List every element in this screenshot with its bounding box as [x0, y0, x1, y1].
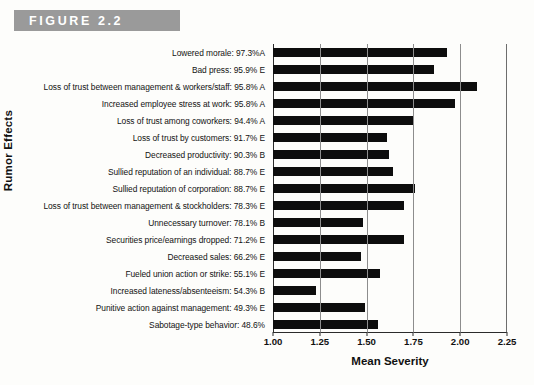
- category-label: Unnecessary turnover: 78.1% B: [148, 218, 265, 228]
- bar[interactable]: [273, 133, 387, 143]
- bar[interactable]: [273, 235, 404, 245]
- x-axis-tick-labels: 1.001.251.501.752.002.25: [273, 336, 507, 352]
- figure-number-label: FIGURE 2.2: [14, 14, 123, 28]
- category-label: Sullied reputation of an individual: 88.…: [108, 167, 265, 177]
- bar-row[interactable]: [273, 197, 507, 214]
- bar-row[interactable]: [273, 316, 507, 333]
- bar-row[interactable]: [273, 282, 507, 299]
- bar-row[interactable]: [273, 112, 507, 129]
- x-tick-label: 1.25: [310, 336, 329, 347]
- bar[interactable]: [273, 184, 415, 194]
- category-label: Loss of trust between management & worke…: [44, 82, 265, 92]
- bar-row[interactable]: [273, 299, 507, 316]
- bar[interactable]: [273, 99, 455, 109]
- x-tick-mark: [273, 332, 274, 336]
- bar[interactable]: [273, 320, 378, 330]
- bar[interactable]: [273, 48, 447, 58]
- bar[interactable]: [273, 82, 477, 92]
- category-label: Sabotage-type behavior: 48.6%: [149, 320, 265, 330]
- bar-row[interactable]: [273, 231, 507, 248]
- bar[interactable]: [273, 167, 393, 177]
- bar[interactable]: [273, 269, 380, 279]
- bar-row[interactable]: [273, 163, 507, 180]
- category-label: Bad press: 95.9% E: [192, 65, 265, 75]
- x-tick-mark: [366, 332, 367, 336]
- x-tick-mark: [507, 332, 508, 336]
- bar[interactable]: [273, 150, 389, 160]
- category-label: Decreased sales: 66.2% E: [168, 252, 266, 262]
- category-label-list: Lowered morale: 97.3%ABad press: 95.9% E…: [20, 44, 269, 333]
- plot-area: [273, 44, 507, 333]
- bar-row[interactable]: [273, 180, 507, 197]
- gridline: [320, 44, 321, 333]
- figure-container: FIGURE 2.2 Rumor Effects Lowered morale:…: [0, 0, 534, 385]
- bar-row[interactable]: [273, 248, 507, 265]
- bar-row[interactable]: [273, 61, 507, 78]
- x-axis-title: Mean Severity: [273, 355, 507, 367]
- bar-row[interactable]: [273, 129, 507, 146]
- bar[interactable]: [273, 65, 434, 75]
- bar-row[interactable]: [273, 95, 507, 112]
- x-tick-mark: [460, 332, 461, 336]
- bar[interactable]: [273, 201, 404, 211]
- x-tick-label: 2.25: [498, 336, 517, 347]
- bar[interactable]: [273, 218, 363, 228]
- bar-row[interactable]: [273, 78, 507, 95]
- x-tick-label: 1.50: [357, 336, 376, 347]
- category-label: Punitive action against management: 49.3…: [96, 303, 265, 313]
- bar-row[interactable]: [273, 214, 507, 231]
- bar[interactable]: [273, 252, 361, 262]
- category-label: Decreased productivity: 90.3% B: [145, 150, 265, 160]
- x-tick-label: 2.00: [451, 336, 470, 347]
- gridline: [413, 44, 414, 333]
- y-axis-title: Rumor Effects: [2, 110, 20, 191]
- category-label: Lowered morale: 97.3%A: [172, 48, 265, 58]
- category-label: Fueled union action or strike: 55.1% E: [125, 269, 265, 279]
- category-label: Loss of trust between management & stock…: [43, 201, 265, 211]
- x-tick-mark: [319, 332, 320, 336]
- x-tick-label: 1.75: [404, 336, 423, 347]
- category-label: Increased lateness/absenteeism: 54.3% B: [111, 286, 265, 296]
- x-tick-label: 1.00: [264, 336, 283, 347]
- bar-rows: [273, 44, 507, 333]
- x-tick-mark: [413, 332, 414, 336]
- category-label: Increased employee stress at work: 95.8%…: [102, 99, 265, 109]
- bar-row[interactable]: [273, 146, 507, 163]
- bar-row[interactable]: [273, 44, 507, 61]
- bar-row[interactable]: [273, 265, 507, 282]
- category-label: Securities price/earnings dropped: 71.2%…: [106, 235, 265, 245]
- bar[interactable]: [273, 286, 316, 296]
- category-label: Sullied reputation of corporation: 88.7%…: [113, 184, 265, 194]
- figure-number-band: FIGURE 2.2: [14, 10, 180, 31]
- gridline: [367, 44, 368, 333]
- category-label: Loss of trust among coworkers: 94.4% A: [117, 116, 265, 126]
- category-label: Loss of trust by customers: 91.7% E: [133, 133, 265, 143]
- bar[interactable]: [273, 116, 413, 126]
- gridline: [460, 44, 461, 333]
